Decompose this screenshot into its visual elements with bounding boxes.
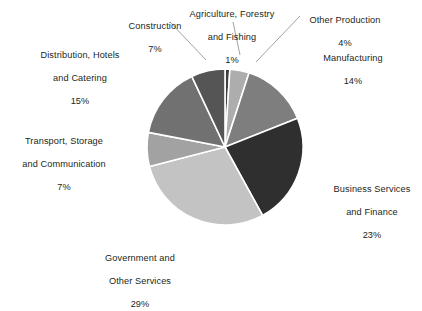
slice-label-transport: Transport, Storage and Communication 7% [0, 124, 130, 205]
slice-label-manufacturing: Manufacturing 14% [295, 41, 411, 99]
slice-percent-transport: 7% [0, 182, 130, 194]
slice-label-construction: Construction 7% [108, 9, 202, 67]
slice-label-manufacturing-line1: Manufacturing [295, 53, 411, 65]
slice-label-government-line2: Other Services [74, 276, 206, 288]
slice-label-transport-line2: and Communication [0, 159, 130, 171]
slice-percent-distribution: 15% [12, 96, 148, 108]
pie-slices-group [147, 69, 303, 225]
slice-label-distribution-line2: and Catering [12, 73, 148, 85]
slice-label-transport-line1: Transport, Storage [0, 136, 130, 148]
slice-label-other-production-line1: Other Production [283, 15, 407, 27]
slice-percent-manufacturing: 14% [295, 76, 411, 88]
slice-label-government-line1: Government and [74, 253, 206, 265]
slice-percent-construction: 7% [108, 44, 202, 56]
slice-label-business-services-line1: Business Services [322, 184, 422, 196]
slice-label-construction-line1: Construction [108, 21, 202, 33]
slice-label-business-services: Business Services and Finance 23% [322, 172, 422, 253]
slice-label-business-services-line2: and Finance [322, 207, 422, 219]
slice-label-government: Government and Other Services 29% [74, 241, 206, 311]
slice-percent-government: 29% [74, 299, 206, 311]
slice-percent-business-services: 23% [322, 230, 422, 242]
